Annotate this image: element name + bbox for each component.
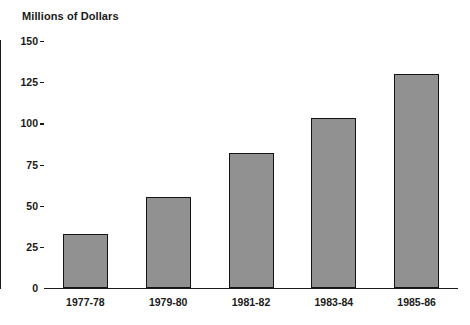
bar <box>63 234 108 288</box>
x-tick-label: 1985-86 <box>397 296 436 308</box>
x-tick-label: 1983-84 <box>315 296 354 308</box>
bar <box>146 197 191 288</box>
bar-chart: Millions of Dollars 0255075100125150 197… <box>0 0 470 325</box>
bar <box>394 74 439 288</box>
bars-group: 1977-781979-801981-821983-841985-86 <box>0 0 470 325</box>
x-tick-label: 1981-82 <box>232 296 271 308</box>
bar <box>229 153 274 288</box>
bar <box>311 118 356 288</box>
x-tick-label: 1979-80 <box>149 296 188 308</box>
x-tick-label: 1977-78 <box>66 296 105 308</box>
